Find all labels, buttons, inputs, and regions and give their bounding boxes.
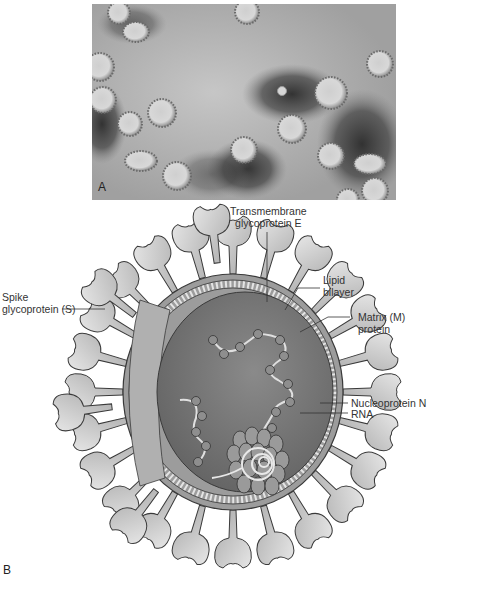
label-transmembrane-glycoprotein: Transmembrane glycoprotein E <box>230 205 307 229</box>
label-line: Lipid <box>323 274 354 286</box>
label-matrix-protein: Matrix (M) protein <box>358 311 405 335</box>
panel-b-label: B <box>3 563 11 577</box>
label-line: glycoprotein (S) <box>2 303 76 315</box>
label-line: Spike <box>2 291 76 303</box>
label-line: RNA <box>351 408 373 420</box>
label-line: Matrix (M) <box>358 311 405 323</box>
label-lipid-bilayer: Lipid bilayer <box>323 274 354 298</box>
label-spike-glycoprotein: Spike glycoprotein (S) <box>2 291 76 315</box>
label-line: bilayer <box>323 286 354 298</box>
label-line: Transmembrane <box>230 205 307 217</box>
label-line: glycoprotein E <box>230 217 307 229</box>
label-rna: RNA <box>351 408 373 420</box>
label-line: protein <box>358 323 405 335</box>
